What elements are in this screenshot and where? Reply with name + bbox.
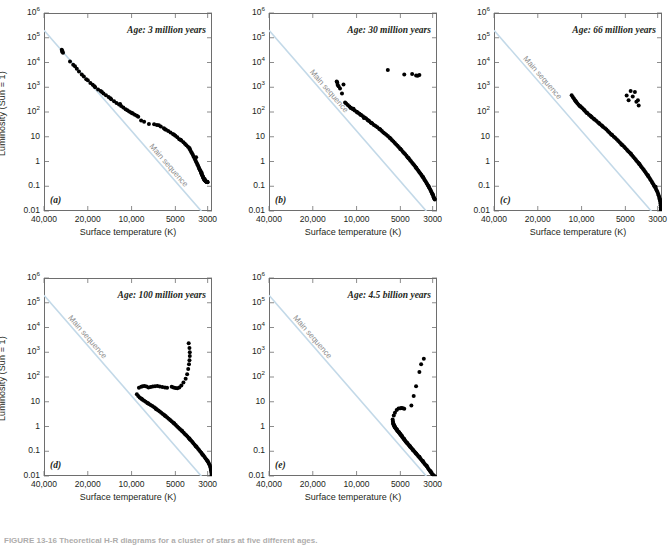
y-tick-label: 1	[233, 421, 265, 431]
star-point	[408, 444, 412, 448]
star-point	[409, 404, 413, 408]
star-point	[398, 432, 402, 436]
x-tick-label: 40,000	[247, 479, 291, 489]
star-point	[402, 437, 406, 441]
y-tick-label: 103	[233, 346, 265, 356]
star-point	[419, 362, 423, 366]
y-tick-label: 106	[233, 272, 265, 282]
x-tick-label: 20,000	[291, 479, 335, 489]
y-tick-label: 102	[233, 371, 265, 381]
y-tick-label: 0.1	[233, 445, 265, 455]
star-point	[422, 357, 426, 361]
x-tick-label: 3000	[411, 479, 455, 489]
main-sequence-label: Main sequence	[291, 314, 334, 361]
star-point	[425, 464, 429, 468]
main-sequence-line	[269, 295, 435, 486]
star-point	[411, 448, 415, 452]
star-point	[412, 394, 416, 398]
figure-caption: FIGURE 13-16 Theoretical H-R diagrams fo…	[4, 536, 317, 545]
y-tick-label: 104	[233, 322, 265, 332]
star-point	[421, 459, 425, 463]
star-point	[432, 473, 436, 477]
age-label: Age: 4.5 billion years	[275, 290, 431, 300]
star-point	[393, 425, 397, 429]
star-point	[414, 451, 418, 455]
star-point	[405, 441, 409, 445]
star-point	[414, 384, 418, 388]
hr-diagram-panel-e: Main sequence1061051041031021010.10.0140…	[0, 0, 672, 545]
star-point	[417, 370, 421, 374]
star-point	[395, 429, 399, 433]
panel-label: (e)	[275, 460, 286, 470]
y-tick-label: 10	[233, 396, 265, 406]
x-tick-label: 10,000	[335, 479, 379, 489]
star-point	[417, 455, 421, 459]
star-point	[392, 413, 396, 417]
x-axis-label: Surface temperature (K)	[269, 492, 437, 502]
y-tick-label: 105	[233, 297, 265, 307]
star-point	[429, 469, 433, 473]
plot-canvas: Main sequence	[269, 278, 437, 476]
star-point	[402, 407, 406, 411]
